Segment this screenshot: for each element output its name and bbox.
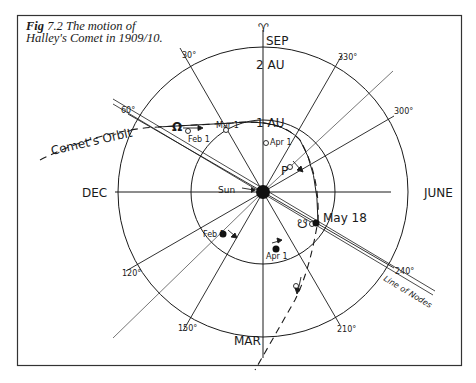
earth-apr1-label: Apr 1: [266, 252, 287, 261]
angle-label-240: 240°: [395, 267, 414, 276]
comet-apr1-label: Apr 1: [270, 138, 291, 147]
diagonal-guides: [113, 71, 393, 338]
month-label-sep: SEP: [266, 34, 288, 48]
comet-orbit-label: Comet's Orbit: [50, 126, 134, 158]
direction-arrows: [183, 126, 303, 295]
comet-mar1-label: Mar 1: [216, 121, 239, 130]
distance-label-2au: 2 AU: [256, 58, 284, 72]
angle-label-300: 300°: [394, 107, 413, 116]
sun: [256, 185, 270, 199]
angle-label-210: 210°: [337, 325, 356, 334]
angle-label-30: 30°: [182, 51, 196, 60]
line-of-nodes-label: Line of Nodes: [382, 274, 433, 310]
figure-caption: Fig 7.2 The motion of Halley's Comet in …: [26, 20, 166, 44]
comet-feb1-label: Feb 1: [188, 135, 210, 144]
vernal-equinox-symbol: ♈: [258, 21, 269, 35]
earth-feb1-label: Feb 1: [203, 230, 225, 239]
angle-label-120: 120°: [122, 269, 141, 278]
distance-label-1au: 1 AU: [256, 116, 284, 130]
sun-label: Sun: [218, 185, 235, 195]
ascending-node-symbol: Ω: [172, 120, 182, 134]
descending-node-symbol: ☋: [297, 217, 308, 231]
angle-label-150: 150°: [178, 324, 197, 333]
month-label-june: JUNE: [423, 186, 453, 200]
month-label-mar: MAR: [234, 334, 261, 348]
month-label-dec: DEC: [82, 186, 107, 200]
halley-comet-diagram: ♈ SEP MAR DEC JUNE 2 AU 1 AU 30° 60° 120…: [0, 0, 476, 383]
caption-line-2: Halley's Comet in 1909/10.: [26, 31, 163, 45]
angle-label-60: 60°: [121, 106, 135, 115]
angle-label-330: 330°: [338, 53, 357, 62]
comet-apr1: [264, 141, 269, 146]
earth-may18: [313, 220, 320, 227]
comet-feb1: [186, 129, 191, 134]
perihelion-symbol: P: [281, 164, 288, 178]
may18-label: May 18: [323, 211, 367, 225]
comet-perihelion: [288, 165, 293, 170]
